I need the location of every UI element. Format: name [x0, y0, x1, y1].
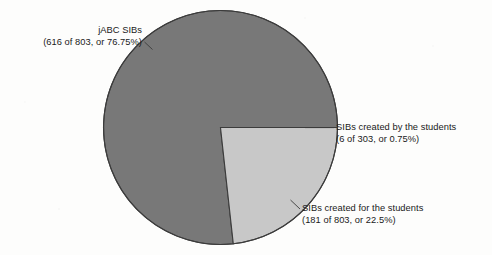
pie-slice-sibs-for-students[interactable] [221, 128, 338, 244]
pie-label-sibs-by-students-detail: (6 of 303, or 0.75%) [336, 134, 456, 146]
pie-chart-figure: jABC SIBs (616 of 803, or 76.75%) SIBs c… [0, 0, 492, 255]
pie-label-sibs-for-students: SIBs created for the students (181 of 80… [302, 203, 423, 226]
pie-label-sibs-by-students: SIBs created by the students (6 of 303, … [336, 122, 456, 145]
pie-label-jabc-sibs-title: jABC SIBs [6, 25, 142, 37]
pie-label-jabc-sibs: jABC SIBs (616 of 803, or 76.75%) [6, 25, 142, 48]
pie-label-sibs-by-students-title: SIBs created by the students [336, 122, 456, 134]
pie-label-sibs-for-students-detail: (181 of 803, or 22.5%) [302, 215, 423, 227]
pie-label-jabc-sibs-detail: (616 of 803, or 76.75%) [6, 37, 142, 49]
pie-label-sibs-for-students-title: SIBs created for the students [302, 203, 423, 215]
